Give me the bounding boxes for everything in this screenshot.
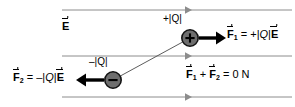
sum-plus: + [200, 68, 206, 80]
force1-equals: = [241, 28, 247, 40]
force2-value-field: E [57, 72, 64, 83]
field-symbol-vector: E [62, 21, 69, 32]
force1-arrowhead-icon [216, 32, 226, 45]
field-symbol-label: E [62, 21, 69, 32]
field-line-arrowhead-icon [185, 93, 192, 100]
force-sum-equation: F1 + F2 = 0 N [186, 69, 250, 80]
force1-subscript: 1 [234, 34, 238, 41]
force1-value-charge: Q [260, 28, 269, 40]
negative-charge-label: –|Q| [89, 57, 108, 67]
sum-term1-subscript: 1 [193, 74, 197, 81]
force1-equation: F1 = +|Q|E [227, 29, 278, 40]
force2-subscript: 2 [20, 77, 24, 84]
force2-equation: F2 = –|Q|E [13, 72, 64, 83]
field-line-arrowhead-icon [185, 6, 192, 13]
field-line-arrowhead-icon [185, 52, 192, 59]
positive-charge-label: +|Q| [163, 14, 182, 24]
force1-symbol: F [227, 29, 234, 40]
sum-equals: = [223, 68, 229, 80]
sum-term2-subscript: 2 [216, 74, 220, 81]
force2-arrowhead-icon [76, 74, 86, 87]
force2-value-prefix: –| [36, 71, 45, 83]
positive-charge [182, 30, 198, 46]
sum-term2-symbol: F [209, 69, 216, 80]
electric-field-force-diagram: E +|Q| –|Q| F1 = +|Q|E F2 = –|Q|E F1 + F… [0, 0, 295, 107]
diagram-canvas [0, 0, 295, 107]
sum-term1-symbol: F [186, 69, 193, 80]
force1-value-field: E [271, 29, 278, 40]
charge-connector-line [113, 38, 190, 80]
force1-arrow [199, 32, 226, 45]
force2-value-charge: Q [45, 71, 54, 83]
field-line-bottom [62, 93, 292, 100]
force2-arrow [76, 74, 104, 87]
force1-value-prefix: +| [250, 28, 259, 40]
force2-equals: = [27, 71, 33, 83]
sum-result: 0 N [232, 68, 249, 80]
plus-sign-icon [189, 33, 191, 42]
force2-symbol: F [13, 72, 20, 83]
minus-sign-icon [108, 79, 117, 81]
negative-charge [105, 72, 121, 88]
